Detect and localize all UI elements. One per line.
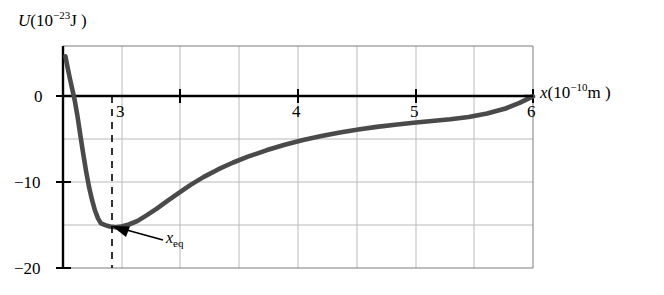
x-tick-label-6: 6 <box>527 103 536 120</box>
x-axis-unit-close: m ) <box>587 83 610 102</box>
x-axis-exponent: −10 <box>570 81 587 93</box>
y-tick-label-minus20: −20 <box>14 260 41 277</box>
x-tick-label-3: 3 <box>116 103 125 120</box>
y-axis-exponent: −23 <box>53 9 70 21</box>
y-tick-label-0: 0 <box>34 88 43 105</box>
xeq-annotation-label: xeq <box>166 230 184 249</box>
y-axis-unit-close: J ) <box>70 11 87 30</box>
plot-area <box>0 0 664 295</box>
y-axis-unit-open: (10 <box>30 11 53 30</box>
potential-energy-figure: U(10−23J ) x(10−10m ) 0 −10 −20 3 4 5 6 … <box>0 0 664 295</box>
y-axis-title: U(10−23J ) <box>18 12 87 29</box>
x-axis-symbol: x <box>540 83 548 102</box>
x-tick-label-4: 4 <box>292 103 301 120</box>
x-axis-unit-open: (10 <box>548 83 571 102</box>
y-tick-label-minus10: −10 <box>14 174 41 191</box>
x-axis-title: x(10−10m ) <box>540 84 611 101</box>
xeq-subscript: eq <box>173 237 183 249</box>
x-tick-label-5: 5 <box>410 103 419 120</box>
y-axis-symbol: U <box>18 11 30 30</box>
xeq-arrow <box>112 226 163 240</box>
potential-energy-curve <box>65 56 533 227</box>
